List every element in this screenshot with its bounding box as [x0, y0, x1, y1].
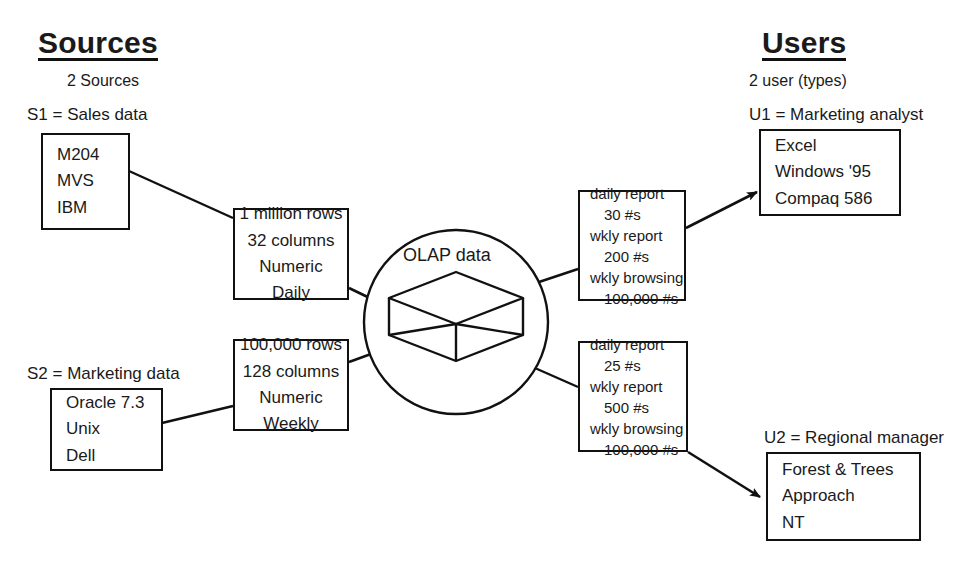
- report-analyst-item: wkly report: [580, 225, 684, 246]
- user-u1-item: Compaq 586: [761, 186, 899, 212]
- report-manager-item: 500 #s: [580, 397, 686, 418]
- report-manager-box[interactable]: daily report 25 #s wkly report 500 #s wk…: [578, 341, 688, 452]
- user-u1-item: Windows '95: [761, 159, 899, 185]
- feed-sales-item: Daily: [235, 280, 347, 306]
- feed-sales-item: Numeric: [235, 254, 347, 280]
- report-manager-item: wkly browsing: [580, 418, 686, 439]
- source-s1-box[interactable]: M204 MVS IBM: [41, 133, 130, 230]
- source-s1-item: M204: [43, 142, 128, 168]
- report-manager-item: 100,000 #s: [580, 439, 686, 460]
- feed-sales-item: 32 columns: [235, 228, 347, 254]
- users-heading: Users: [762, 26, 846, 61]
- source-s2-item: Oracle 7.3: [52, 390, 161, 416]
- source-s1-item: MVS: [43, 168, 128, 194]
- feed-marketing-item: Weekly: [235, 411, 347, 437]
- olap-hub-label: OLAP data: [403, 245, 491, 266]
- connector-hub-to-report-manager: [519, 361, 578, 387]
- report-analyst-box[interactable]: daily report 30 #s wkly report 200 #s wk…: [578, 190, 686, 301]
- report-analyst-item: 200 #s: [580, 246, 684, 267]
- connector-hub-to-report-analyst: [521, 269, 578, 288]
- report-analyst-item: 30 #s: [580, 204, 684, 225]
- arrow-report-analyst-to-u1: [686, 192, 757, 228]
- sources-heading: Sources: [38, 26, 158, 61]
- sources-heading-text: Sources: [38, 26, 158, 59]
- user-u1-item: Excel: [761, 133, 899, 159]
- feed-marketing-item: 128 columns: [235, 359, 347, 385]
- user-u2-item: Approach: [768, 483, 919, 509]
- feed-sales-box[interactable]: 1 million rows 32 columns Numeric Daily: [233, 208, 349, 300]
- user-u1-label: U1 = Marketing analyst: [749, 105, 923, 125]
- report-manager-item: wkly report: [580, 376, 686, 397]
- report-manager-item: daily report: [580, 334, 686, 355]
- feed-marketing-item: 100,000 rows: [235, 332, 347, 358]
- feed-marketing-item: Numeric: [235, 385, 347, 411]
- arrow-feed-sales-to-hub: [349, 288, 380, 303]
- cube-icon: [389, 272, 523, 361]
- report-analyst-item: 100,000 #s: [580, 288, 684, 309]
- source-s1-item: IBM: [43, 195, 128, 221]
- user-u2-item: Forest & Trees: [768, 457, 919, 483]
- sources-count-label: 2 Sources: [67, 72, 139, 90]
- arrow-report-manager-to-u2: [688, 452, 760, 497]
- arrow-feed-marketing-to-hub: [349, 350, 382, 362]
- user-u1-box[interactable]: Excel Windows '95 Compaq 586: [759, 129, 901, 216]
- connector-s1-to-feed-sales: [129, 171, 233, 218]
- user-u2-label: U2 = Regional manager: [764, 428, 944, 448]
- report-manager-item: 25 #s: [580, 355, 686, 376]
- source-s1-label: S1 = Sales data: [27, 105, 148, 125]
- source-s2-box[interactable]: Oracle 7.3 Unix Dell: [50, 388, 163, 471]
- report-analyst-item: wkly browsing: [580, 267, 684, 288]
- source-s2-label: S2 = Marketing data: [27, 364, 180, 384]
- user-u2-item: NT: [768, 510, 919, 536]
- user-u2-box[interactable]: Forest & Trees Approach NT: [766, 452, 921, 541]
- feed-marketing-box[interactable]: 100,000 rows 128 columns Numeric Weekly: [233, 339, 349, 431]
- source-s2-item: Dell: [52, 443, 161, 469]
- report-analyst-item: daily report: [580, 183, 684, 204]
- users-count-label: 2 user (types): [749, 72, 847, 90]
- source-s2-item: Unix: [52, 416, 161, 442]
- users-heading-text: Users: [762, 26, 846, 59]
- diagram-canvas: Sources 2 Sources Users 2 user (types) S…: [0, 0, 954, 565]
- connector-s2-to-feed-marketing: [162, 406, 233, 423]
- feed-sales-item: 1 million rows: [235, 201, 347, 227]
